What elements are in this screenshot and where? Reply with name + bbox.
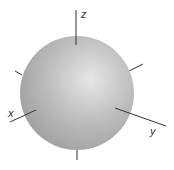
x-axis-label: x [7, 107, 14, 119]
sphere-axes-diagram: z x y [0, 0, 174, 170]
z-axis-label: z [80, 8, 87, 20]
sphere [20, 36, 134, 150]
y-axis-label: y [149, 125, 157, 137]
negative-y-stub-line [15, 71, 22, 75]
